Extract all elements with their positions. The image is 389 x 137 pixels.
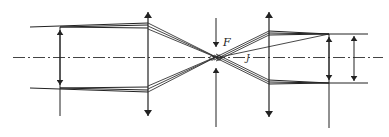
optical-diagram: F J xyxy=(0,0,389,137)
focus-label: F xyxy=(222,36,231,49)
